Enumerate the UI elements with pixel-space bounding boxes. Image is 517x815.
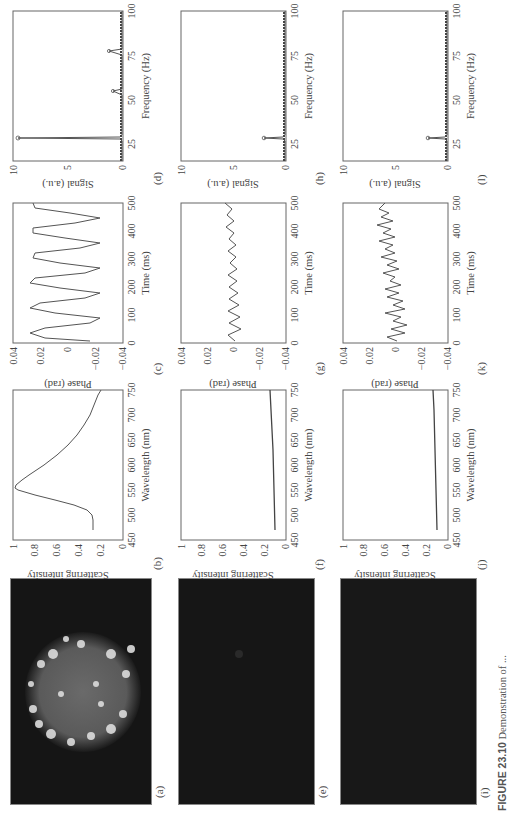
svg-text:550: 550 [289,483,300,498]
svg-text:0.6: 0.6 [51,544,62,557]
panel-label: (i) [478,788,490,798]
svg-text:400: 400 [289,224,300,239]
x-axis-label: Wavelength (nm) [465,428,477,501]
svg-text:300: 300 [289,252,300,267]
svg-text:−0.04: −0.04 [117,347,128,370]
svg-text:10: 10 [8,165,19,175]
scattering-chart: 450500 550600 650700 750 00.2 0.40.6 0.8… [5,380,165,570]
svg-text:75: 75 [126,51,137,61]
svg-text:700: 700 [289,408,300,423]
svg-text:0.04: 0.04 [176,347,187,365]
svg-text:10: 10 [338,165,349,175]
svg-text:100: 100 [289,4,300,19]
svg-text:650: 650 [289,433,300,448]
svg-text:400: 400 [451,224,462,239]
y-axis-label: Phase (rad) [209,378,257,390]
svg-text:700: 700 [126,408,137,423]
svg-text:−0.02: −0.02 [90,347,101,370]
figure-row-2: (e) 450500 550600 650700 750 00.2 0.40.6… [168,0,328,815]
scattering-chart: 450500 550600 650700 750 00.2 0.40.6 0.8… [173,380,328,570]
svg-text:0: 0 [280,165,291,170]
svg-text:100: 100 [126,308,137,323]
svg-text:0.04: 0.04 [338,347,349,365]
phase-plot-g: 0100 200300 400500 −0.04−0.02 00.02 0.04… [173,195,328,375]
panel-label: (a) [153,786,165,798]
y-axis-label: Phase (rad) [44,378,92,390]
panel-label: (k) [475,362,487,375]
svg-text:500: 500 [126,508,137,523]
microscopy-image-a: (a) [10,578,152,805]
scattering-plot-f: 450500 550600 650700 750 00.2 0.40.6 0.8… [173,380,328,570]
x-axis-label: Wavelength (nm) [303,428,315,501]
svg-text:0: 0 [126,341,137,346]
figure-row-1: (a) 450500 550600 650700 750 00.2 0.40.6… [0,0,165,815]
svg-text:0.04: 0.04 [8,347,19,365]
scattering-chart: 450500 550600 650700 750 00.2 0.40.6 0.8… [335,380,490,570]
x-axis-label: Time (ms) [303,251,315,295]
svg-text:−0.04: −0.04 [442,347,453,370]
phase-chart: 0100 200300 400500 −0.04−0.02 00.02 0.04… [173,195,328,375]
svg-text:50: 50 [289,95,300,105]
phase-plot-c: 0100 200300 400500 −0.04−0.02 00.02 0.04… [5,195,165,375]
y-axis-label: Scattering intensity [192,570,274,581]
svg-text:600: 600 [451,458,462,473]
svg-text:25: 25 [126,139,137,149]
svg-text:−0.02: −0.02 [416,347,427,370]
svg-text:0.8: 0.8 [196,544,207,557]
signal-chart: 2550 75100 05 10 Frequency (Hz) Signal (… [173,5,328,185]
panel-label: (d) [151,172,163,185]
svg-text:100: 100 [451,308,462,323]
svg-text:550: 550 [451,483,462,498]
x-axis-label: Frequency (Hz) [465,52,477,119]
svg-text:0: 0 [390,347,401,352]
svg-text:700: 700 [451,408,462,423]
svg-text:500: 500 [451,508,462,523]
signal-plot-d: 2550 75100 05 10 Frequency (Hz) Signal (… [5,5,165,185]
svg-text:400: 400 [126,224,137,239]
svg-text:650: 650 [126,433,137,448]
svg-text:0: 0 [62,347,73,352]
svg-text:5: 5 [62,165,73,170]
y-axis-label: Scattering intensity [27,570,109,581]
svg-text:500: 500 [451,196,462,211]
microscopy-image-e: (e) [178,578,315,805]
svg-text:50: 50 [451,95,462,105]
svg-text:5: 5 [228,165,239,170]
svg-text:550: 550 [126,483,137,498]
svg-text:0.8: 0.8 [358,544,369,557]
x-axis-label: Wavelength (nm) [140,428,152,501]
svg-text:1: 1 [176,544,187,549]
svg-text:0.4: 0.4 [73,544,84,557]
x-axis-label: Frequency (Hz) [140,52,152,119]
x-axis-label: Time (ms) [140,251,152,295]
svg-text:750: 750 [126,383,137,398]
svg-text:100: 100 [126,4,137,19]
svg-text:0: 0 [451,341,462,346]
phase-plot-k: 0100 200300 400500 −0.04−0.02 00.02 0.04… [335,195,490,375]
cell-image [11,579,151,804]
svg-text:75: 75 [289,51,300,61]
panel-label: (l) [475,175,487,185]
svg-text:750: 750 [451,383,462,398]
svg-text:0.2: 0.2 [421,544,432,557]
svg-text:0.6: 0.6 [379,544,390,557]
x-axis-label: Time (ms) [465,251,477,295]
svg-text:50: 50 [126,95,137,105]
phase-chart: 0100 200300 400500 −0.04−0.02 00.02 0.04… [335,195,490,375]
svg-text:200: 200 [289,280,300,295]
x-axis-label: Frequency (Hz) [303,52,315,119]
svg-text:0.4: 0.4 [238,544,249,557]
svg-text:−0.04: −0.04 [280,347,291,370]
svg-text:−0.02: −0.02 [254,347,265,370]
phase-chart: 0100 200300 400500 −0.04−0.02 00.02 0.04… [5,195,165,375]
svg-text:500: 500 [126,196,137,211]
panel-label: (e) [316,786,328,798]
svg-text:200: 200 [126,280,137,295]
svg-text:500: 500 [289,508,300,523]
panel-label: (g) [313,362,325,375]
panel-label: (j) [475,560,487,570]
svg-text:10: 10 [176,165,187,175]
svg-text:0: 0 [289,341,300,346]
panel-label: (b) [151,557,163,570]
panel-label: (f) [313,559,325,570]
